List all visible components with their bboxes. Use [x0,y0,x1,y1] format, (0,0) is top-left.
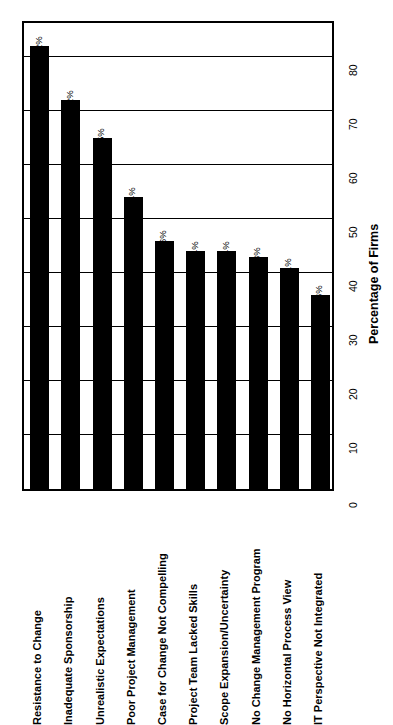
bar-value-label: 44% [189,242,200,260]
bar-value-label: 36% [313,285,324,303]
axis-tick-60: 60 [347,172,359,184]
bar [155,241,174,490]
bar [217,251,236,489]
axis-tick-50: 50 [347,226,359,238]
category-label: No Horizontal Process View [281,580,293,725]
category-label: Project Team Lacked Skills [187,584,199,725]
category-label: Case for Change Not Compelling [156,553,168,725]
category-label: Poor Project Management [125,589,137,725]
bar-value-label: 65% [95,128,106,146]
category-label: No Change Management Program [250,548,262,725]
bar-value-label: 41% [282,258,293,276]
axis-tick-30: 30 [347,334,359,346]
bar-value-label: 72% [64,91,75,109]
bar-value-label: 82% [33,37,44,55]
axis-tick-20: 20 [347,388,359,400]
bar-value-label: 44% [220,242,231,260]
bar [124,197,143,489]
bar-value-label: 54% [126,188,137,206]
bar [93,138,112,489]
bar [311,295,330,489]
axis-title: Percentage of Firms [367,224,381,344]
category-label: Resistance to Change [31,610,43,725]
gridline-80 [24,56,332,57]
axis-tick-10: 10 [347,442,359,454]
bar [280,268,299,489]
axis-tick-80: 80 [347,64,359,76]
bar [61,100,80,489]
category-label: IT Perspective Not Integrated [312,573,324,725]
bar [186,251,205,489]
bar-value-label: 46% [157,231,168,249]
bar [249,257,268,489]
axis-tick-0: 0 [347,502,359,508]
category-label: Inadequate Sponsorship [62,597,74,725]
axis-tick-40: 40 [347,280,359,292]
axis-tick-70: 70 [347,118,359,130]
bar [30,46,49,489]
bar-value-label: 43% [251,247,262,265]
category-label: Unrealistic Expectations [94,597,106,725]
category-label: Scope Expansion/Uncertainty [218,570,230,725]
